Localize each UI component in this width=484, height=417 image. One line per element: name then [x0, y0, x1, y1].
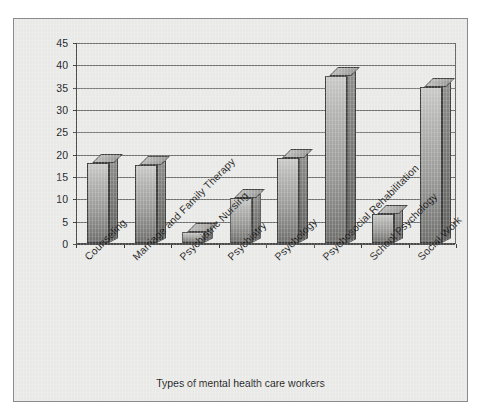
y-tick-mark [73, 199, 77, 200]
y-tick-label: 25 [40, 126, 68, 138]
y-tick-mark [73, 110, 77, 111]
x-tick-mark [361, 244, 362, 248]
gridline [77, 132, 455, 133]
y-tick-label: 10 [40, 193, 68, 205]
bar-column [325, 76, 347, 244]
bar-front-face [420, 87, 442, 243]
y-tick-label: 20 [40, 149, 68, 161]
y-tick-mark [73, 132, 77, 133]
x-tick-mark [266, 244, 267, 248]
x-tick-mark [456, 244, 457, 248]
gridline [77, 155, 455, 156]
x-tick-mark [171, 244, 172, 248]
chart-figure-frame: Rates per 100,000 population Types of me… [13, 18, 468, 402]
x-tick-mark [76, 244, 77, 248]
x-tick-mark [314, 244, 315, 248]
bar-top-face [282, 149, 313, 158]
bar-column [420, 87, 442, 243]
bar-side-face [347, 71, 356, 243]
gridline [77, 110, 455, 111]
y-tick-mark [73, 155, 77, 156]
y-tick-label: 0 [40, 238, 68, 250]
x-tick-mark [124, 244, 125, 248]
y-tick-label: 45 [40, 37, 68, 49]
y-tick-label: 15 [40, 171, 68, 183]
plot-area [76, 43, 456, 244]
bar-front-face [325, 76, 347, 244]
gridline [77, 43, 455, 44]
gridline [77, 199, 455, 200]
x-tick-mark [409, 244, 410, 248]
y-tick-mark [73, 222, 77, 223]
y-tick-mark [73, 65, 77, 66]
y-tick-mark [73, 177, 77, 178]
gridline [77, 65, 455, 66]
y-tick-mark [73, 43, 77, 44]
y-tick-label: 35 [40, 82, 68, 94]
y-tick-label: 30 [40, 104, 68, 116]
y-tick-label: 40 [40, 59, 68, 71]
gridline [77, 88, 455, 89]
y-tick-label: 5 [40, 216, 68, 228]
x-tick-mark [219, 244, 220, 248]
x-axis-title: Types of mental health care workers [14, 377, 467, 389]
y-tick-mark [73, 88, 77, 89]
